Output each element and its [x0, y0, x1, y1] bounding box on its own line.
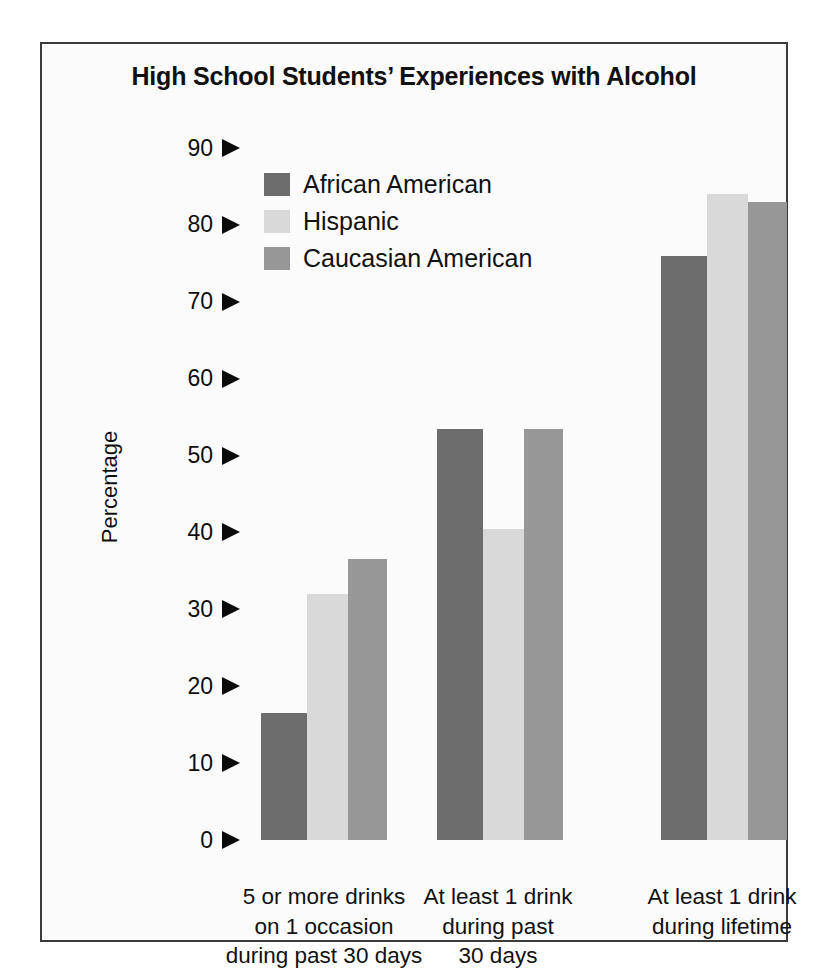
bar [707, 194, 748, 840]
bar [748, 202, 787, 840]
legend-label: Caucasian American [303, 246, 532, 271]
bar [307, 594, 348, 840]
x-axis-category-labels: 5 or more drinkson 1 occasionduring past… [162, 882, 782, 980]
legend-swatch-icon [264, 173, 290, 196]
legend-label: Hispanic [303, 209, 399, 234]
legend-item: Hispanic [264, 205, 532, 237]
legend-item: African American [264, 168, 532, 200]
bar [661, 256, 707, 840]
x-category-label-line: 30 days [378, 941, 618, 971]
chart-title: High School Students’ Experiences with A… [42, 62, 786, 91]
bar [261, 713, 307, 840]
legend-swatch-icon [264, 210, 290, 233]
bar [348, 559, 387, 840]
x-category-label-line: At least 1 drink [602, 882, 821, 912]
chart-legend: African AmericanHispanicCaucasian Americ… [264, 168, 532, 274]
legend-item: Caucasian American [264, 242, 532, 274]
legend-swatch-icon [264, 247, 290, 270]
x-category-label-line: during lifetime [602, 912, 821, 942]
legend-label: African American [303, 172, 492, 197]
x-category-label: At least 1 drinkduring lifetime [602, 882, 821, 941]
x-category-label-line: At least 1 drink [378, 882, 618, 912]
bar [437, 429, 483, 840]
x-category-label-line: during past [378, 912, 618, 942]
x-category-label: At least 1 drinkduring past30 days [378, 882, 618, 971]
chart-frame: High School Students’ Experiences with A… [40, 42, 788, 942]
y-axis-title: Percentage [97, 397, 123, 577]
bar [483, 529, 524, 840]
bar [524, 429, 563, 840]
